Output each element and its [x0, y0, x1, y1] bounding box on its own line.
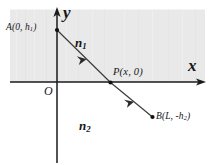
- point-b-label-suffix: ): [187, 111, 190, 121]
- point-b-label: B(L, -h2): [156, 112, 190, 122]
- refracted-ray-segment: [111, 83, 153, 118]
- point-a-label: A(0, h1): [6, 23, 36, 33]
- point-b-label-prefix: B(L, -: [156, 111, 179, 121]
- lower-medium-index-label: n2: [79, 119, 91, 134]
- upper-medium-index-label: n1: [75, 36, 87, 51]
- x-axis-label: x: [188, 57, 197, 74]
- point-a-label-prefix: A(0,: [6, 22, 25, 32]
- lower-medium-index-subscript: 2: [86, 124, 90, 134]
- point-a-marker: [55, 28, 59, 32]
- point-a-label-suffix: ): [33, 22, 36, 32]
- point-p-marker: [108, 80, 112, 84]
- point-b-marker: [150, 115, 154, 119]
- upper-medium-index-subscript: 1: [82, 41, 86, 51]
- point-p-label: P(x, 0): [113, 67, 143, 78]
- refraction-diagram-figure: A(0, h1) P(x, 0) B(L, -h2) n1 n2 O y x: [0, 0, 215, 165]
- origin-label: O: [44, 85, 53, 97]
- y-axis-label: y: [63, 4, 71, 21]
- upper-medium-shaded-region: [10, 10, 205, 83]
